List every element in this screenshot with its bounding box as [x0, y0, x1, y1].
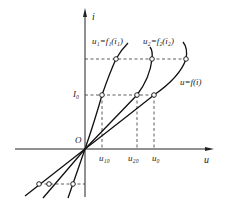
u10-label: u₁₀ [99, 154, 110, 163]
i-axis-arrow-icon [83, 8, 87, 17]
i0-label: I₀ [73, 90, 79, 99]
marker [114, 57, 119, 62]
diagram-canvas [0, 0, 229, 218]
curve-1-path [68, 43, 128, 198]
curve-1-label: u₁=f₁(i₁) [92, 37, 123, 46]
u0-label: u₀ [152, 154, 160, 163]
curve-combined-path [25, 42, 187, 196]
marker [184, 57, 189, 62]
u20-label: u₂₀ [128, 154, 139, 163]
marker [150, 57, 155, 62]
u-axis-arrow-icon [205, 147, 214, 151]
i-axis-label: i [92, 12, 95, 22]
diagram: i u O u₁=f₁(i₁) u₂=f₂(i₂) u=f(i) I₀ u₁₀ … [0, 0, 229, 218]
curves [25, 42, 187, 198]
curve-combined-label: u=f(i) [180, 78, 202, 87]
curve-2-path [43, 47, 152, 198]
marker [152, 93, 157, 98]
markers [37, 57, 189, 187]
marker [47, 182, 52, 187]
marker [135, 93, 140, 98]
u-axis-label: u [204, 155, 209, 165]
curve-2-label: u₂=f₂(i₂) [143, 37, 174, 46]
marker [71, 182, 76, 187]
marker [100, 93, 105, 98]
dashed-guides [39, 59, 186, 184]
origin-label: O [75, 136, 82, 145]
marker [37, 182, 42, 187]
